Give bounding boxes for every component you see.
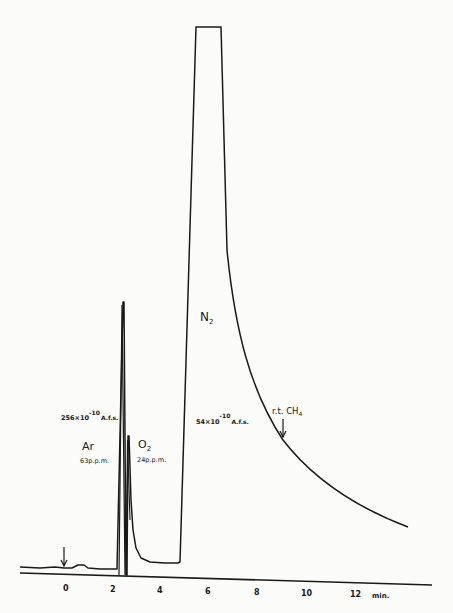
tick-2: 2 xyxy=(110,585,116,594)
x-unit-label: min. xyxy=(372,592,389,600)
x-tick-labels: 0 2 4 6 8 10 12 min. xyxy=(63,584,389,600)
n2-peak-label: N2 xyxy=(200,310,213,326)
ar-peak-label: Ar xyxy=(82,440,95,453)
x-axis xyxy=(20,573,432,585)
tick-8: 8 xyxy=(254,588,260,597)
chromatogram-trace xyxy=(20,27,408,575)
rt-ch4-arrow-icon xyxy=(280,419,286,437)
tick-4: 4 xyxy=(157,586,163,595)
tick-12: 12 xyxy=(350,590,361,599)
tick-0: 0 xyxy=(63,584,69,593)
afs-right-label: 54×10-10A.f.s. xyxy=(196,412,249,426)
afs-left-label: 256×10-10A.f.s. xyxy=(61,409,118,422)
o2-peak-label: O2 xyxy=(138,438,151,453)
injection-arrow-icon xyxy=(61,547,67,566)
tick-6: 6 xyxy=(205,587,211,596)
tick-10: 10 xyxy=(301,589,313,598)
chromatogram-chart: 0 2 4 6 8 10 12 min. 256×10-10A.f.s. Ar … xyxy=(0,0,453,613)
rt-ch4-label: r.t. CH4 xyxy=(272,406,302,417)
ar-concentration: 63p.p.m. xyxy=(80,457,109,465)
o2-concentration: 24p.p.m. xyxy=(137,456,166,464)
